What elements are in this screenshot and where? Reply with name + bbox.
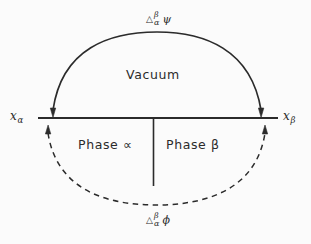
vacuum-transfer-operator-label: △ β α ψ bbox=[146, 11, 172, 27]
bulk-arc-arrowhead-left bbox=[45, 125, 50, 134]
bulk-transfer-operator-label: △ β α ϕ bbox=[146, 212, 171, 228]
vacuum-region-label: Vacuum bbox=[126, 69, 180, 82]
vacuum-arc-arrowhead-left bbox=[50, 108, 55, 118]
diagram-canvas bbox=[0, 0, 311, 244]
x-beta-endpoint-label: xβ bbox=[283, 110, 296, 125]
delta-subscript: α bbox=[154, 19, 160, 27]
vacuum-arc-arrowhead-right bbox=[258, 108, 263, 118]
delta-subscript: α bbox=[154, 220, 160, 228]
phase-beta-region-label: Phase β bbox=[166, 139, 219, 152]
delta-indices: β α bbox=[154, 212, 160, 228]
phase-transfer-diagram: △ β α ψ △ β α ϕ Vacuum Phase ∝ Phase β x… bbox=[0, 0, 311, 244]
delta-indices: β α bbox=[154, 11, 160, 27]
delta-triangle-icon: △ bbox=[146, 216, 154, 225]
bulk-arc-arrowhead-right bbox=[262, 125, 267, 134]
delta-quantity-psi: ψ bbox=[163, 14, 172, 25]
x-alpha-index: α bbox=[17, 115, 23, 125]
x-alpha-endpoint-label: xα bbox=[10, 110, 24, 125]
delta-quantity-phi: ϕ bbox=[163, 215, 171, 226]
delta-triangle-icon: △ bbox=[146, 15, 154, 24]
phase-alpha-region-label: Phase ∝ bbox=[78, 139, 132, 152]
x-beta-index: β bbox=[290, 115, 296, 125]
